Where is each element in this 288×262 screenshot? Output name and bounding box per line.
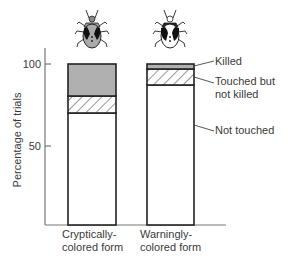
segment-not-touched [147,85,194,225]
insect-warning-icon [153,10,187,48]
category-cryptic-line2: colored form [62,241,123,253]
label-touched-line1: Touched but [215,75,275,87]
leader-killed [194,61,214,66]
category-labels: Cryptically- colored form Warningly- col… [62,228,201,253]
segment-touched-not-killed [68,96,116,113]
label-touched-line2: not killed [215,88,258,100]
segment-killed [147,64,194,69]
segment-not-touched [68,113,116,225]
bar-cryptically-colored [68,64,116,225]
category-warning-line2: colored form [140,241,201,253]
insect-cryptic-icon [75,10,109,48]
segment-touched-not-killed [147,69,194,85]
label-not-touched: Not touched [215,124,274,136]
category-cryptic-line1: Cryptically- [62,228,117,240]
leader-not-touched [194,125,214,131]
y-axis-label: Percentage of trials [11,92,23,187]
label-killed: Killed [215,55,242,67]
category-warning-line1: Warningly- [140,228,192,240]
legend-annotations: Killed Touched but not killed Not touche… [194,55,275,136]
tick-label-100: 100 [23,58,41,70]
bar-warningly-colored [147,64,194,225]
leader-touched [194,77,214,83]
chart: 100 50 Percentage of trials Killed Touch… [0,0,288,262]
segment-killed [68,64,116,96]
tick-label-50: 50 [29,140,41,152]
